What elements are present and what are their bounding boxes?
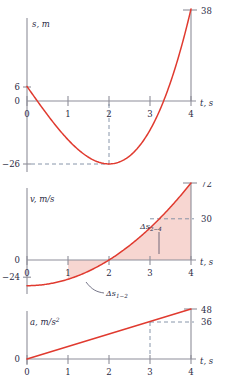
x-tick-label-1: 1 <box>65 367 70 377</box>
kinematics-figure: s, m t, s 6 0 −26 0 1 2 3 4 38 <box>0 0 233 383</box>
shaded-region-delta-s-2-4 <box>109 183 191 260</box>
x-tick-label-4: 4 <box>188 367 193 377</box>
x-axis-label: t, s <box>200 356 214 366</box>
y-tick-label-0: 0 <box>15 354 20 364</box>
chart-acceleration: a, m/s2 t, s 0 0 1 2 3 4 48 36 <box>0 303 233 383</box>
x-tick-label-4: 4 <box>188 109 193 119</box>
callout-label-36: 36 <box>201 317 212 327</box>
annotation-layer-delta-s-1-2: Δs1−2 <box>0 268 233 308</box>
x-tick-label-3: 3 <box>147 109 152 119</box>
x-tick-label-2: 2 <box>106 367 111 377</box>
chart-displacement: s, m t, s 6 0 −26 0 1 2 3 4 38 <box>0 0 233 178</box>
y-axis-label: s, m <box>32 19 50 29</box>
x-tick-label-2: 2 <box>106 109 111 119</box>
callout-label-72: 72 <box>201 182 212 189</box>
y-tick-label-6: 6 <box>15 82 20 92</box>
callout-label-48: 48 <box>201 305 212 315</box>
x-tick-label-1: 1 <box>65 109 70 119</box>
y-axis-label: v, m/s <box>30 194 55 204</box>
x-axis-label: t, s <box>200 257 214 267</box>
y-tick-label-0: 0 <box>15 255 20 265</box>
annotation-delta-s-1-2: Δs1−2 <box>105 289 128 299</box>
x-tick-label-0: 0 <box>24 367 29 377</box>
y-tick-label-neg26: −26 <box>2 159 20 169</box>
callout-label-30: 30 <box>201 214 212 224</box>
x-tick-label-3: 3 <box>147 367 152 377</box>
x-axis-label: t, s <box>200 98 214 108</box>
leader-line-delta-s-1-2 <box>86 282 104 293</box>
y-axis-label: a, m/s2 <box>30 316 60 327</box>
y-tick-label-0: 0 <box>15 96 20 106</box>
x-tick-label-0: 0 <box>24 109 29 119</box>
callout-label-38: 38 <box>201 6 212 16</box>
